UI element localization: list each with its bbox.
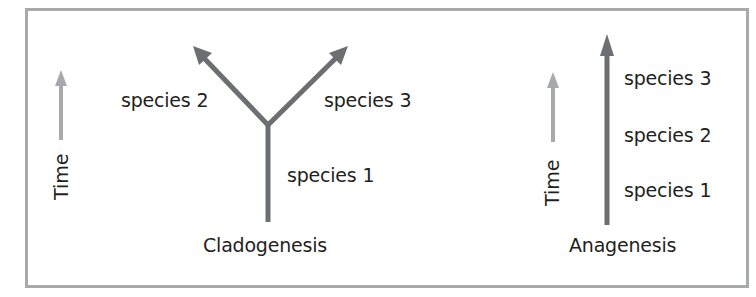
ana-time-label: Time	[541, 160, 563, 207]
ana-title: Anagenesis	[569, 234, 676, 256]
ana-lineage-arrow-icon	[600, 34, 614, 225]
clado-species-3-label: species 3	[324, 89, 411, 111]
ana-species-2-label: species 2	[624, 124, 711, 146]
clado-time-label: Time	[50, 154, 72, 201]
clado-species-1-label: species 1	[287, 164, 374, 186]
clado-species-2-label: species 2	[121, 89, 208, 111]
clado-tree-icon	[193, 46, 348, 222]
ana-time-arrow-icon	[547, 72, 559, 142]
clado-time-arrow-icon	[55, 70, 67, 140]
ana-species-3-label: species 3	[624, 67, 711, 89]
clado-title: Cladogenesis	[203, 234, 327, 256]
ana-species-1-label: species 1	[624, 179, 711, 201]
